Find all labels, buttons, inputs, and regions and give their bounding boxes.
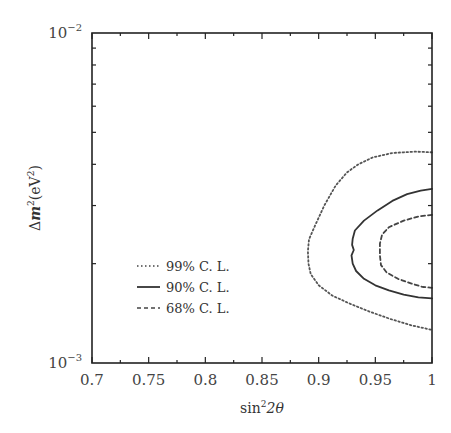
contour-chart: 0.70.750.80.850.90.95110−210−3 Δm2(eV2) … — [0, 0, 451, 433]
contour-90-cl — [352, 189, 433, 299]
ticks-layer — [92, 33, 432, 363]
plot-frame — [92, 33, 432, 363]
legend-label-99: 99% C. L. — [166, 259, 230, 274]
y-tick-label: 10−2 — [48, 22, 82, 42]
y-axis-label: Δm2(eV2) — [26, 165, 43, 231]
tick-labels: 0.70.750.80.850.90.95110−210−3 — [48, 22, 437, 389]
legend: 99% C. L. 90% C. L. 68% C. L. — [137, 259, 230, 316]
x-tick-label: 1 — [427, 371, 437, 389]
y-tick-label: 10−3 — [48, 352, 82, 372]
x-tick-label: 0.7 — [80, 371, 104, 389]
x-tick-label: 0.9 — [307, 371, 331, 389]
x-tick-label: 0.75 — [132, 371, 165, 389]
contour-99-cl — [308, 152, 432, 330]
x-tick-label: 0.8 — [193, 371, 217, 389]
x-tick-label: 0.95 — [359, 371, 392, 389]
contour-curves — [308, 152, 432, 330]
x-axis-label: sin22θ — [240, 399, 284, 416]
contour-68-cl — [380, 215, 432, 288]
legend-label-68: 68% C. L. — [166, 301, 230, 316]
x-tick-label: 0.85 — [245, 371, 278, 389]
legend-label-90: 90% C. L. — [166, 280, 230, 295]
